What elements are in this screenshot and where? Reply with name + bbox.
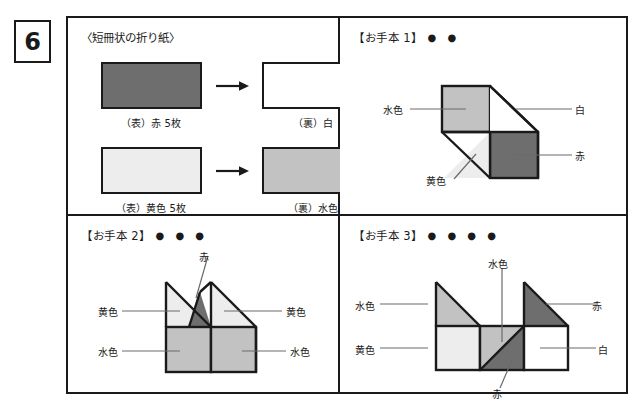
panel-model-3: 【お手本 3】● ● ● ●	[340, 216, 626, 392]
panel-model-2: 【お手本 2】● ● ●	[68, 216, 340, 392]
model-2-label-yellow-left: 黄色	[98, 304, 118, 319]
question-number-box: 6	[14, 20, 51, 63]
model-1-title-text: 【お手本 1】	[353, 31, 422, 45]
model-1-title: 【お手本 1】● ●	[353, 29, 460, 45]
swatch-front-yellow-label: （表）黄色 5枚	[81, 200, 221, 215]
model-1-label-red: 赤	[575, 148, 585, 163]
paper-section-heading: 〈短冊状の折り紙〉	[81, 29, 180, 45]
model-2-title: 【お手本 2】● ● ●	[81, 227, 208, 243]
problem-frame: 〈短冊状の折り紙〉 （表）赤 5枚 （裏）白 （表）黄色 5枚	[66, 16, 628, 394]
question-number: 6	[24, 30, 41, 54]
model-2-label-yellow-right: 黄色	[286, 304, 306, 319]
swatch-front-yellow	[101, 147, 202, 194]
swatch-front-red	[101, 62, 202, 109]
model-2-label-lightblue-left: 水色	[98, 344, 118, 359]
model-2-label-red: 赤	[199, 249, 209, 264]
model-2-difficulty-dots: ● ● ●	[155, 230, 208, 241]
panel-model-1: 【お手本 1】● ●	[340, 18, 626, 216]
model-2-title-text: 【お手本 2】	[81, 229, 150, 243]
model-3-title: 【お手本 3】● ● ● ●	[353, 227, 500, 243]
model-1-label-lightblue: 水色	[383, 102, 403, 117]
model-1-difficulty-dots: ● ●	[427, 32, 460, 43]
model-3-label-red-right: 赤	[592, 298, 602, 313]
panel-paper-definitions: 〈短冊状の折り紙〉 （表）赤 5枚 （裏）白 （表）黄色 5枚	[68, 18, 340, 216]
arrow-icon-row1	[215, 79, 251, 93]
model-2-label-lightblue-right: 水色	[290, 344, 310, 359]
model-3-label-white: 白	[598, 342, 608, 357]
arrow-icon-row2	[215, 164, 251, 178]
model-1-figure	[432, 78, 584, 198]
model-3-label-lightblue-left: 水色	[355, 298, 375, 313]
model-3-label-yellow: 黄色	[355, 342, 375, 357]
model-3-difficulty-dots: ● ● ● ●	[427, 230, 499, 241]
model-2-figure	[146, 264, 306, 386]
swatch-front-red-label: （表）赤 5枚	[81, 115, 221, 130]
model-1-label-white: 白	[575, 102, 585, 117]
model-3-title-text: 【お手本 3】	[353, 229, 422, 243]
worksheet-sheet: 6 〈短冊状の折り紙〉 （表）赤 5枚 （裏）白 （表）黄色 5枚	[0, 0, 642, 409]
model-3-figure	[400, 264, 590, 386]
model-3-label-lightblue-top: 水色	[488, 256, 508, 271]
model-1-label-yellow: 黄色	[426, 173, 446, 188]
model-3-label-red-bottom: 赤	[492, 386, 502, 401]
